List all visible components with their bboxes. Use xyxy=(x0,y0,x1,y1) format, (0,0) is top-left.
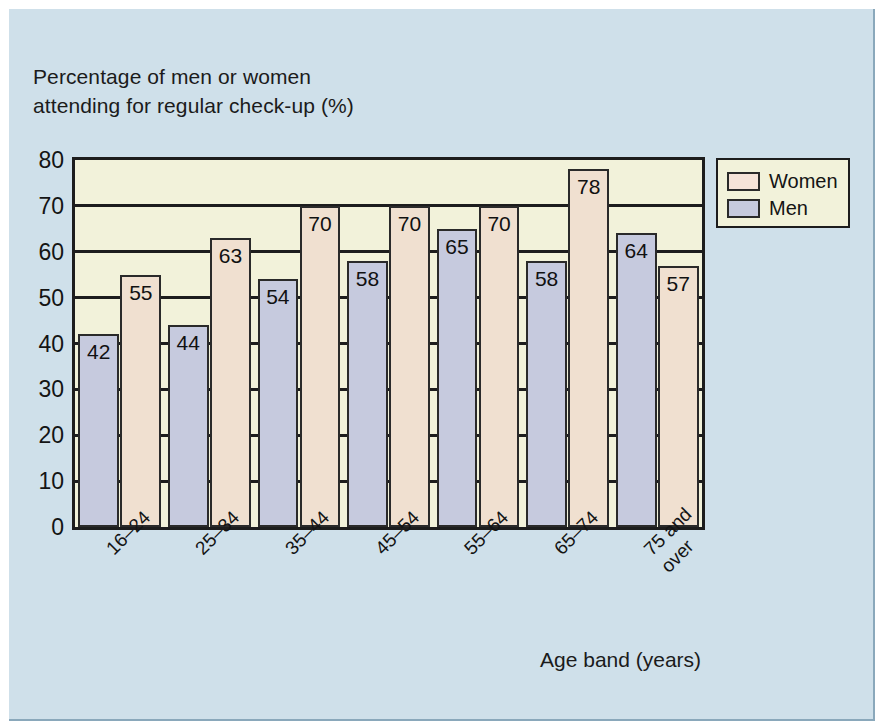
bar-men-35–44: 54 xyxy=(258,279,299,527)
bar-value-label: 70 xyxy=(481,212,518,236)
bar-women-45–54: 70 xyxy=(389,206,430,527)
bar-value-label: 55 xyxy=(122,281,159,305)
bar-value-label: 70 xyxy=(302,212,339,236)
page-margin-left xyxy=(0,0,9,721)
bar-men-45–54: 58 xyxy=(347,261,388,527)
bar-value-label: 57 xyxy=(660,272,697,296)
bar-men-55–64: 65 xyxy=(437,229,478,527)
bar-women-35–44: 70 xyxy=(300,206,341,527)
bar-women-55–64: 70 xyxy=(479,206,520,527)
y-tick-label: 40 xyxy=(16,330,64,357)
bar-value-label: 64 xyxy=(618,239,655,263)
bar-men-65–74: 58 xyxy=(526,261,567,527)
bar-men-75-and-over: 64 xyxy=(616,233,657,527)
bar-women-25–34: 63 xyxy=(210,238,251,527)
y-axis-title-line-1: Percentage of men or women xyxy=(33,62,463,91)
y-tick-label: 60 xyxy=(16,238,64,265)
bar-women-16–24: 55 xyxy=(120,275,161,527)
x-axis-tick-labels: 16–2425–3435–4445–5455–6465–7475 and ove… xyxy=(72,530,705,640)
bar-value-label: 58 xyxy=(349,267,386,291)
y-tick-label: 20 xyxy=(16,422,64,449)
bar-value-label: 58 xyxy=(528,267,565,291)
plot-inner: 4255446354705870657058786457 xyxy=(75,160,702,527)
y-axis-title-line-2: attending for regular check-up (%) xyxy=(33,91,463,120)
bar-value-label: 65 xyxy=(439,235,476,259)
bar-women-75-and-over: 57 xyxy=(658,266,699,527)
legend-label-men: Men xyxy=(769,197,808,220)
bar-women-65–74: 78 xyxy=(568,169,609,527)
y-tick-label: 80 xyxy=(16,147,64,174)
bar-value-label: 42 xyxy=(80,340,117,364)
chart-legend: Women Men xyxy=(716,158,850,228)
y-axis-tick-labels: 01020304050607080 xyxy=(10,157,64,530)
y-tick-label: 0 xyxy=(16,514,64,541)
x-axis-title: Age band (years) xyxy=(540,648,701,672)
legend-swatch-men-icon xyxy=(727,199,760,218)
bar-value-label: 70 xyxy=(391,212,428,236)
y-tick-label: 50 xyxy=(16,284,64,311)
legend-label-women: Women xyxy=(769,170,838,193)
legend-swatch-women-icon xyxy=(727,172,760,191)
bar-value-label: 44 xyxy=(170,331,207,355)
bar-value-label: 63 xyxy=(212,244,249,268)
legend-item-women: Women xyxy=(727,168,848,195)
plot-area: 4255446354705870657058786457 xyxy=(72,157,705,530)
chart-figure: Percentage of men or women attending for… xyxy=(0,0,875,721)
page-margin-top xyxy=(0,0,875,9)
y-tick-label: 30 xyxy=(16,376,64,403)
bar-value-label: 54 xyxy=(260,285,297,309)
legend-item-men: Men xyxy=(727,195,848,222)
bar-value-label: 78 xyxy=(570,175,607,199)
y-axis-title: Percentage of men or women attending for… xyxy=(33,62,463,120)
bar-men-16–24: 42 xyxy=(78,334,119,527)
bar-men-25–34: 44 xyxy=(168,325,209,527)
y-tick-label: 10 xyxy=(16,468,64,495)
y-tick-label: 70 xyxy=(16,192,64,219)
